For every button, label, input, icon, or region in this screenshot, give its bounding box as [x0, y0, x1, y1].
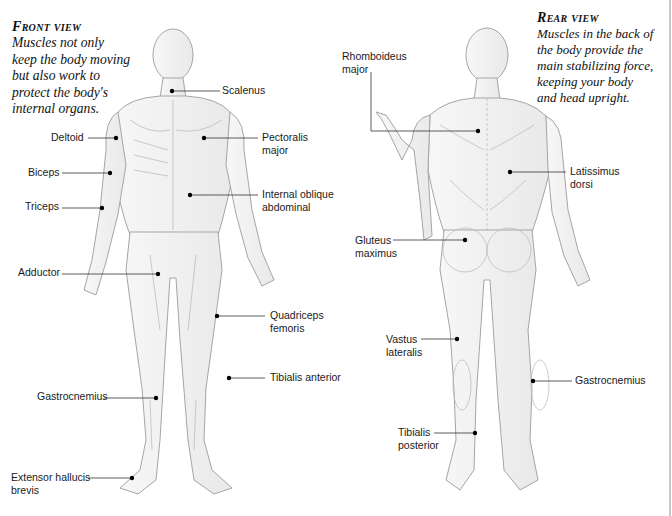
- label-internal-oblique: Internal oblique abdominal: [262, 188, 334, 214]
- front-desc-line: but also work to: [12, 68, 192, 85]
- label-triceps: Triceps: [25, 200, 59, 213]
- front-desc-line: protect the body's: [12, 85, 192, 102]
- front-view-title: Front view: [12, 19, 192, 35]
- label-biceps: Biceps: [28, 166, 60, 179]
- front-view-description: Muscles not only keep the body moving bu…: [12, 35, 192, 118]
- label-tibialis-anterior: Tibialis anterior: [270, 371, 341, 384]
- label-gluteus-maximus: Gluteus maximus: [355, 234, 397, 260]
- label-scalenus: Scalenus: [222, 84, 265, 97]
- rear-view-caption: Rear view Muscles in the back of the bod…: [537, 10, 672, 106]
- rear-desc-line: keeping your body: [537, 74, 672, 90]
- label-tibialis-posterior: Tibialis posterior: [398, 426, 439, 452]
- label-vastus-lateralis: Vastus lateralis: [386, 333, 422, 359]
- rear-desc-line: the body provide the: [537, 42, 672, 58]
- front-desc-line: internal organs.: [12, 101, 192, 118]
- label-extensor-hallucis-brevis: Extensor hallucis brevis: [11, 471, 90, 497]
- label-quadriceps-femoris: Quadriceps femoris: [270, 309, 324, 335]
- label-gastrocnemius-rear: Gastrocnemius: [575, 374, 646, 387]
- front-desc-line: Muscles not only: [12, 35, 192, 52]
- rear-desc-line: Muscles in the back of: [537, 26, 672, 42]
- front-view-caption: Front view Muscles not only keep the bod…: [12, 19, 192, 118]
- rear-desc-line: and head upright.: [537, 90, 672, 106]
- rear-view-title: Rear view: [537, 10, 672, 26]
- rear-desc-line: main stabilizing force,: [537, 58, 672, 74]
- label-latissimus-dorsi: Latissimus dorsi: [570, 165, 620, 191]
- label-adductor: Adductor: [18, 266, 60, 279]
- label-pectoralis-major: Pectoralis major: [262, 131, 308, 157]
- label-gastrocnemius-front: Gastrocnemius: [37, 390, 108, 403]
- rear-view-description: Muscles in the back of the body provide …: [537, 26, 672, 106]
- label-deltoid: Deltoid: [51, 131, 84, 144]
- front-desc-line: keep the body moving: [12, 52, 192, 69]
- label-rhomboideus-major: Rhomboideus major: [342, 50, 407, 76]
